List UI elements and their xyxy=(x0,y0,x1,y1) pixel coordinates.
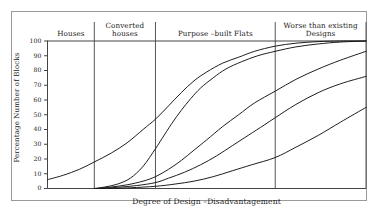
band-label-4: Worse than existingDesigns xyxy=(275,22,366,39)
band-label-2: Convertedhouses xyxy=(94,22,155,39)
figure-container: 1009080706050403020100 Percentage Number… xyxy=(0,0,389,223)
y-tick-label: 70 xyxy=(24,82,42,88)
curve-5 xyxy=(108,107,366,188)
y-tick-label: 20 xyxy=(24,156,42,162)
curve-1 xyxy=(48,41,367,180)
band-label-1: Houses xyxy=(48,30,95,38)
y-tick-label: 100 xyxy=(24,38,42,44)
y-tick-label: 60 xyxy=(24,97,42,103)
y-tick-label: 80 xyxy=(24,67,42,73)
curve-3 xyxy=(97,51,366,188)
y-tick-label: 10 xyxy=(24,171,42,177)
y-axis-title: Percentage Number of Blocks xyxy=(14,42,21,174)
curve-2 xyxy=(94,41,366,189)
y-tick-label: 40 xyxy=(24,126,42,132)
y-tick-label: 30 xyxy=(24,141,42,147)
band-label-3: Purpose –built Flats xyxy=(155,30,275,38)
band-divider-lines xyxy=(94,22,366,189)
chart-axes xyxy=(48,41,367,189)
x-axis-title: Degree of Design –Disadvantagement xyxy=(47,198,366,206)
band-label-line-1: Purpose –built Flats xyxy=(155,30,275,38)
band-label-line-2: houses xyxy=(94,30,155,38)
y-axis-ticks xyxy=(44,41,48,189)
chart-curves xyxy=(48,41,367,189)
y-tick-label: 0 xyxy=(24,185,42,191)
y-tick-label: 50 xyxy=(24,112,42,118)
band-label-line-2: Designs xyxy=(275,30,366,38)
y-tick-label: 90 xyxy=(24,53,42,59)
band-label-line-1: Houses xyxy=(48,30,95,38)
